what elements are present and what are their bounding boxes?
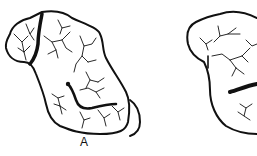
- transverse-band-b: [230, 84, 257, 92]
- diagram-canvas: [0, 0, 257, 156]
- main-channel-a: [68, 84, 116, 109]
- basin-fragment: [130, 100, 140, 136]
- source-point-a: [66, 82, 70, 86]
- basin-outline-a: [6, 11, 130, 134]
- panel-b: [130, 12, 257, 136]
- divide-line-a: [30, 14, 42, 64]
- panel-a: [6, 11, 130, 134]
- basin-outline-b: [187, 12, 257, 134]
- panel-label-a: A: [80, 136, 88, 148]
- tributaries-a: [14, 20, 124, 128]
